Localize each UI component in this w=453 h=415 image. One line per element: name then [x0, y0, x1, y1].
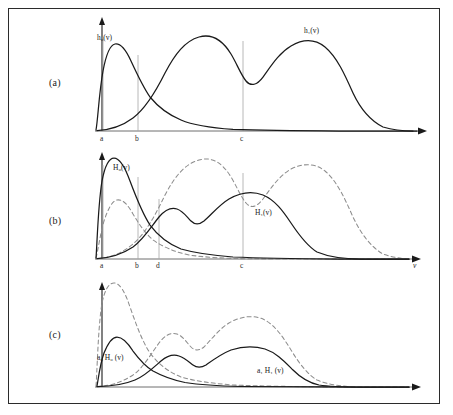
x-axis-label-v: v — [413, 261, 417, 269]
curve-h0 — [96, 44, 417, 131]
panel-a-y-arrow — [99, 17, 105, 25]
curve-h0-dashed — [96, 200, 407, 259]
panel-a: (a) a b c h₀(v) — [9, 9, 441, 143]
panel-c-y-arrow — [99, 282, 105, 290]
panel-c-x-arrow — [412, 384, 421, 391]
tick-label-b: b — [135, 134, 139, 143]
curve-H0-dashed — [96, 283, 409, 387]
curve-a0H0 — [97, 337, 409, 387]
panel-b-plot: a b d c H₀(v) H₁(v) v — [9, 143, 441, 269]
curve-H1-dashed — [97, 317, 409, 387]
curve-label-H0: H₀(v) — [113, 163, 130, 172]
panel-b-y-arrow — [99, 152, 105, 160]
panel-a-plot: a b c h₀(v) h₁(v) — [9, 9, 441, 143]
curve-label-a1H1: a₁ H₁ (v) — [257, 366, 284, 375]
tick-label-b-c: c — [240, 261, 244, 269]
curve-H1 — [97, 193, 409, 259]
panel-a-x-arrow — [418, 128, 427, 135]
panel-b: (b) a — [9, 143, 441, 269]
figure-root: (a) a b c h₀(v) — [0, 0, 453, 415]
curve-H0 — [96, 158, 409, 259]
curve-label-a0H0: a₀ H₀ (v) — [97, 353, 124, 362]
curve-a1H1 — [97, 347, 409, 387]
tick-label-b-a: a — [100, 261, 104, 269]
tick-label-c: c — [240, 134, 244, 143]
curve-label-h0: h₀(v) — [97, 33, 113, 42]
curve-label-H1: H₁(v) — [255, 208, 272, 217]
curve-h1-dashed — [97, 159, 409, 259]
tick-label-b-d: d — [156, 261, 160, 269]
panel-c: (c) a₀ H₀ (v) a₁ H₁ (v) — [9, 269, 441, 403]
figure-frame: (a) a b c h₀(v) — [8, 8, 440, 404]
curve-h1 — [97, 36, 413, 131]
tick-label-b-b: b — [135, 261, 139, 269]
tick-label-a: a — [100, 134, 104, 143]
panel-c-plot: a₀ H₀ (v) a₁ H₁ (v) — [9, 269, 441, 403]
curve-label-h1: h₁(v) — [304, 26, 320, 35]
